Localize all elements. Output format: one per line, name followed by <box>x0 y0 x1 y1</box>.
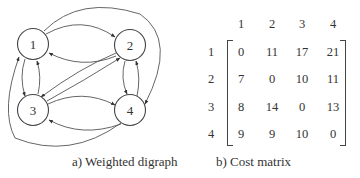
node-label-3: 3 <box>30 103 37 118</box>
edge-4-2 <box>136 61 139 96</box>
node-label-4: 4 <box>127 103 134 118</box>
matrix-cell: 9 <box>269 127 275 142</box>
weighted-digraph: 1 2 3 4 <box>0 0 180 178</box>
row-header: 4 <box>208 127 214 142</box>
matrix-right-bracket <box>340 40 346 146</box>
edge-1-4 <box>44 7 160 104</box>
row-header: 3 <box>208 100 214 115</box>
matrix-left-bracket <box>227 40 233 146</box>
col-header: 4 <box>330 17 336 32</box>
matrix-cell: 13 <box>327 100 340 115</box>
matrix-cell: 0 <box>269 72 275 87</box>
matrix-cell: 0 <box>330 127 336 142</box>
caption-cost-matrix: b) Cost matrix <box>216 154 291 170</box>
edge-3-2 <box>47 58 120 101</box>
col-header: 1 <box>238 17 244 32</box>
edge-4-3 <box>49 120 121 130</box>
matrix-cell: 0 <box>299 100 305 115</box>
edge-1-2 <box>46 25 115 37</box>
edge-1-3 <box>22 59 25 96</box>
row-header: 1 <box>208 45 214 60</box>
matrix-cell: 7 <box>238 72 244 87</box>
col-header: 2 <box>269 17 275 32</box>
node-label-2: 2 <box>127 38 134 53</box>
matrix-cell: 10 <box>296 72 309 87</box>
caption-weighted-digraph: a) Weighted digraph <box>72 154 178 170</box>
matrix-cell: 14 <box>266 100 279 115</box>
matrix-cell: 10 <box>296 127 309 142</box>
matrix-cell: 0 <box>238 45 244 60</box>
col-header: 3 <box>299 17 305 32</box>
matrix-cell: 21 <box>327 45 340 60</box>
matrix-cell: 17 <box>296 45 309 60</box>
edge-3-1 <box>37 61 40 94</box>
matrix-cell: 9 <box>238 127 244 142</box>
node-label-1: 1 <box>30 37 37 52</box>
matrix-cell: 8 <box>238 100 244 115</box>
edge-2-4 <box>123 61 127 94</box>
row-header: 2 <box>208 72 214 87</box>
matrix-cell: 11 <box>327 72 339 87</box>
matrix-cell: 11 <box>266 45 278 60</box>
edge-3-4 <box>48 96 115 105</box>
